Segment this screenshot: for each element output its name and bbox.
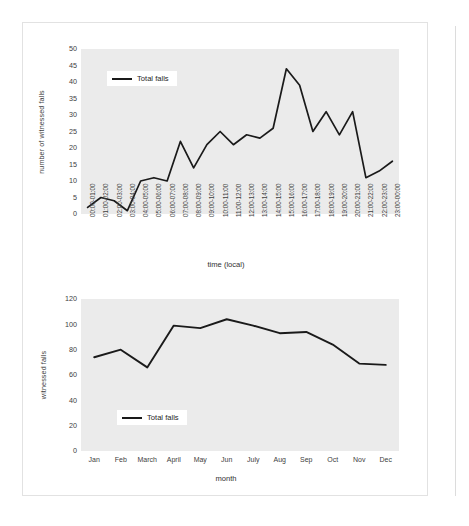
- y-axis-tick-label: 40: [57, 78, 77, 85]
- x-axis-tick-label: 22:00-23:00: [382, 183, 388, 217]
- x-axis-tick-label: 09:00-10:00: [209, 183, 215, 217]
- y-axis-title: witnessed falls: [39, 351, 48, 399]
- chart-legend: Total falls: [117, 410, 187, 425]
- x-axis-tick-label: 04:00-05:00: [143, 183, 149, 217]
- x-axis-tick-label: 06:00-07:00: [170, 183, 176, 217]
- y-axis-tick-label: 30: [57, 111, 77, 118]
- legend-line-swatch: [122, 417, 142, 419]
- x-axis-tick-label: 00:00-01:00: [90, 183, 96, 217]
- y-axis-tick-label: 100: [57, 321, 77, 328]
- x-axis-tick-label: 05:00-06:00: [156, 183, 162, 217]
- x-axis-tick-label: 20:00-21:00: [355, 183, 361, 217]
- x-axis-tick-label: 14:00-15:00: [276, 183, 282, 217]
- x-axis-title: month: [23, 475, 429, 483]
- legend-line-swatch: [112, 78, 132, 80]
- x-axis-tick-label: 11:00-12:00: [236, 184, 242, 217]
- y-axis-tick-label: 120: [57, 295, 77, 302]
- chart-legend: Total falls: [107, 71, 177, 86]
- x-axis-tick-label: 03:00-04:00: [130, 183, 136, 217]
- y-axis-tick-label: 10: [57, 177, 77, 184]
- y-axis-tick-label: 0: [57, 447, 77, 454]
- x-axis-tick-label: March: [134, 456, 161, 463]
- legend-label: Total falls: [147, 413, 179, 422]
- x-axis-tick-label: Aug: [267, 456, 294, 463]
- y-axis-tick-label: 0: [57, 210, 77, 217]
- line-series-total-falls: [81, 299, 399, 451]
- x-axis-title: time (local): [23, 261, 429, 269]
- x-axis-tick-label: 07:00-08:00: [183, 183, 189, 217]
- x-axis-tick-label: 21:00-22:00: [368, 183, 374, 217]
- y-axis-tick-label: 45: [57, 62, 77, 69]
- x-axis-tick-label: 02:00-03:00: [117, 183, 123, 217]
- x-axis-tick-label: Oct: [320, 456, 347, 463]
- x-axis-tick-label: 08:00-09:00: [196, 183, 202, 217]
- x-axis-tick-label: 13:00-14:00: [262, 183, 268, 217]
- y-axis-tick-label: 15: [57, 161, 77, 168]
- page-gutter-line: [455, 26, 456, 496]
- x-axis-tick-label: 12:00-13:00: [249, 183, 255, 217]
- x-axis-tick-label: 17:00-18:00: [315, 183, 321, 217]
- y-axis-tick-label: 50: [57, 45, 77, 52]
- y-axis-tick-label: 25: [57, 128, 77, 135]
- x-axis-tick-label: 10:00-11:00: [223, 184, 229, 217]
- x-axis-tick-label: 18:00-19:00: [329, 183, 335, 217]
- x-axis-tick-label: 15:00-16:00: [289, 183, 295, 217]
- x-axis-tick-label: 16:00-17:00: [302, 183, 308, 217]
- x-axis-tick-label: 19:00-20:00: [342, 183, 348, 217]
- x-axis-tick-label: April: [161, 456, 188, 463]
- x-axis-tick-label: Feb: [108, 456, 135, 463]
- x-axis-tick-label: Sep: [293, 456, 320, 463]
- y-axis-tick-label: 20: [57, 144, 77, 151]
- x-axis-tick-label: 23:00-00:00: [395, 183, 401, 217]
- x-axis-tick-label: May: [187, 456, 214, 463]
- legend-label: Total falls: [137, 74, 169, 83]
- y-axis-tick-label: 35: [57, 95, 77, 102]
- x-axis-tick-label: Jun: [214, 456, 241, 463]
- chart-falls-by-month: witnessed falls 020406080100120 JanFebMa…: [23, 285, 429, 493]
- y-axis-tick-label: 40: [57, 397, 77, 404]
- y-axis-tick-label: 60: [57, 371, 77, 378]
- y-axis-tick-label: 5: [57, 194, 77, 201]
- x-axis-tick-label: July: [240, 456, 267, 463]
- plot-area: [81, 299, 399, 451]
- y-axis-tick-label: 80: [57, 346, 77, 353]
- y-axis-title: number of witnessed falls: [37, 90, 46, 174]
- chart-falls-by-hour: number of witnessed falls 05101520253035…: [23, 31, 429, 281]
- x-axis-tick-label: Nov: [346, 456, 373, 463]
- document-page: number of witnessed falls 05101520253035…: [22, 22, 428, 496]
- x-axis-tick-label: Dec: [373, 456, 400, 463]
- x-axis-tick-label: 01:00-02:00: [103, 183, 109, 217]
- x-axis-tick-label: Jan: [81, 456, 108, 463]
- y-axis-tick-label: 20: [57, 422, 77, 429]
